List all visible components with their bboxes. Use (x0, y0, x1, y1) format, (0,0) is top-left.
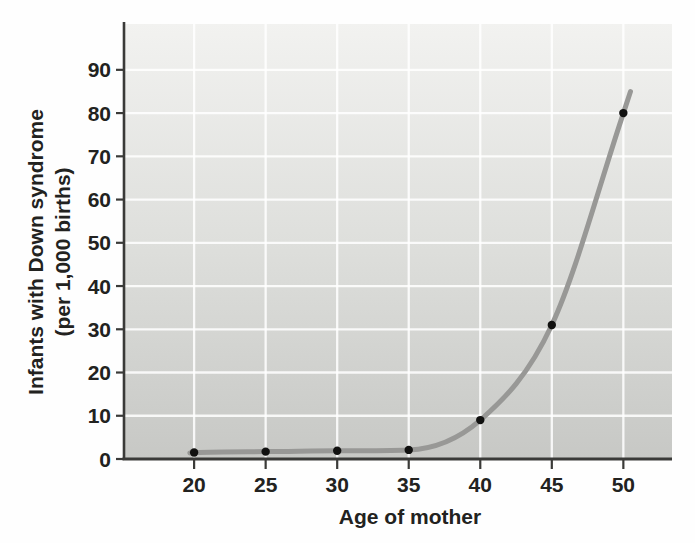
x-tick-label: 50 (612, 473, 635, 496)
y-tick-label: 40 (88, 275, 111, 298)
x-tick-label: 45 (540, 473, 564, 496)
y-tick-label: 70 (88, 145, 111, 168)
data-point-dot (619, 109, 627, 117)
x-tick-label: 30 (326, 473, 349, 496)
y-axis-title-line2: (per 1,000 births) (50, 109, 77, 395)
plot-background (124, 24, 672, 459)
chart-canvas: 010203040506070809020253035404550 (0, 0, 695, 543)
data-point-dot (190, 448, 198, 456)
y-tick-label: 90 (88, 58, 111, 81)
down-syndrome-risk-figure: 010203040506070809020253035404550 Infant… (0, 0, 695, 543)
y-tick-label: 50 (88, 231, 111, 254)
y-tick-label: 60 (88, 188, 111, 211)
x-tick-label: 25 (254, 473, 278, 496)
data-point-dot (548, 321, 556, 329)
data-point-dot (333, 447, 341, 455)
x-tick-label: 40 (469, 473, 492, 496)
y-axis-title-line1: Infants with Down syndrome (23, 109, 50, 395)
x-tick-label: 35 (397, 473, 421, 496)
data-point-dot (476, 416, 484, 424)
x-tick-label: 20 (182, 473, 205, 496)
y-tick-label: 10 (88, 404, 111, 427)
y-tick-label: 20 (88, 361, 111, 384)
data-point-dot (261, 447, 269, 455)
x-axis-title: Age of mother (339, 505, 481, 529)
data-point-dot (405, 446, 413, 454)
y-tick-label: 30 (88, 318, 111, 341)
y-axis-title: Infants with Down syndrome (per 1,000 bi… (23, 109, 77, 395)
y-tick-label: 80 (88, 102, 111, 125)
y-tick-label: 0 (99, 448, 111, 471)
